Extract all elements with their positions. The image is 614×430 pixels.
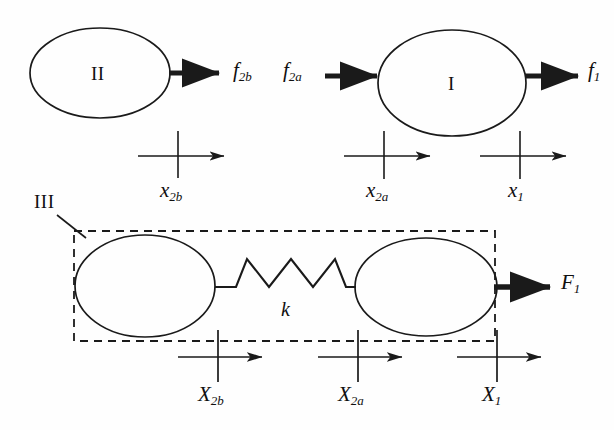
coordinate-label-X1-base: X [482, 382, 495, 406]
force-label-f2b-sub: 2b [239, 69, 252, 84]
coordinate-marker-x1 [480, 131, 566, 179]
bottom-left-mass-ellipse [75, 235, 215, 337]
coordinate-label-x2b-sub: 2b [169, 189, 182, 204]
body-two-group [30, 28, 224, 178]
coordinate-label-x2b-base: x [160, 178, 169, 202]
coordinate-label-x1-base: x [508, 178, 517, 202]
coordinate-label-X2b-base: X [198, 382, 211, 406]
diagram-canvas: II f2b x2b f2a I f1 x2a x1 III k F1 X2b … [0, 0, 614, 430]
coordinate-label-X2a-sub: 2a [351, 393, 364, 408]
force-label-F1: F1 [561, 272, 580, 295]
system-boundary-dashed-box [74, 231, 495, 341]
coordinate-label-x1: x1 [508, 180, 524, 203]
coordinate-label-x2a-sub: 2a [375, 189, 388, 204]
coordinate-label-x2a-base: x [366, 178, 375, 202]
force-label-f2a-sub: 2a [289, 69, 302, 84]
spring-element [215, 259, 356, 287]
force-label-f1-sub: 1 [594, 69, 601, 84]
body-two-label: II [91, 64, 105, 83]
force-label-f1: f1 [588, 60, 600, 83]
force-label-f2b: f2b [233, 60, 252, 83]
body-one-label: I [448, 74, 455, 93]
system-three-label: III [34, 192, 54, 211]
coordinate-marker-X2b [178, 330, 262, 382]
coordinate-label-X2b-sub: 2b [211, 393, 224, 408]
coordinate-label-X1-sub: 1 [495, 393, 502, 408]
coordinate-label-X1: X1 [482, 384, 501, 407]
coordinate-label-X2a-base: X [338, 382, 351, 406]
body-one-group [325, 30, 578, 179]
force-label-f2a: f2a [283, 60, 302, 83]
coordinate-label-x2b: x2b [160, 180, 182, 203]
coordinate-marker-X2a [318, 330, 402, 382]
coordinate-label-X2b: X2b [198, 384, 224, 407]
coordinate-label-X2a: X2a [338, 384, 364, 407]
coordinate-marker-x2a [344, 131, 430, 179]
coordinate-label-x2a: x2a [366, 180, 388, 203]
force-label-F1-base: F [561, 270, 574, 294]
system-three-leader-line [57, 215, 86, 238]
coordinate-label-x1-sub: 1 [517, 189, 524, 204]
force-label-F1-sub: 1 [574, 281, 581, 296]
system-three-group [57, 215, 550, 382]
coordinate-marker-x2b [138, 131, 224, 178]
coordinate-marker-X1 [457, 330, 541, 382]
spring-constant-label: k [281, 299, 290, 319]
bottom-right-mass-ellipse [355, 238, 497, 336]
